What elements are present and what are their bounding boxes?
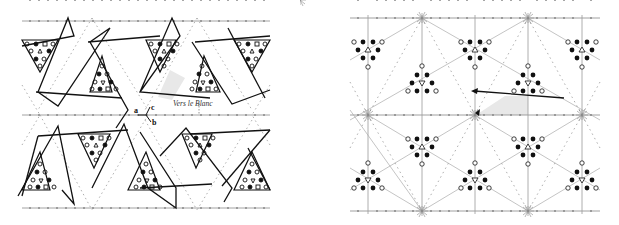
left-tiling-svg: a c b Vers le Blanc: [0, 0, 300, 225]
right-lattice-svg: [300, 0, 619, 225]
star-nodes: [300, 0, 588, 217]
label-b: b: [152, 118, 157, 127]
axis-vectors: [138, 107, 151, 122]
annotation-vers-le-blanc: Vers le Blanc: [173, 99, 213, 108]
zigzag-arrows: [18, 18, 270, 208]
left-diagram-panel: a c b Vers le Blanc: [0, 0, 300, 225]
symbol-group: [25, 42, 55, 68]
right-diagram-panel: [300, 0, 619, 225]
shaded-region: [476, 96, 528, 115]
label-c: c: [151, 103, 155, 112]
label-a: a: [134, 106, 138, 115]
